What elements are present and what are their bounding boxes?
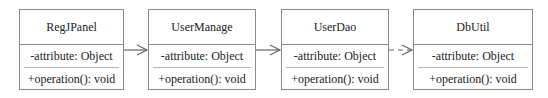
dependency-arrow-userdao-dbutil — [389, 45, 412, 55]
relation-arrows — [0, 0, 548, 98]
dependency-arrow-regjpanel-usermanage — [124, 45, 147, 55]
dependency-arrow-usermanage-userdao — [256, 45, 280, 55]
